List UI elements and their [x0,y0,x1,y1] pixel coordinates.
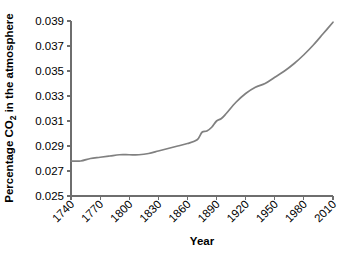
x-tick-label: 1920 [224,198,251,225]
y-axis-title-post: in the atmosphere [3,13,15,115]
x-tick-label: 1770 [79,198,106,225]
x-tick-label: 1980 [283,198,310,225]
x-tick-label: 1860 [166,198,193,225]
y-tick-label: 0.033 [35,90,64,102]
y-tick-label: 0.035 [35,65,64,77]
x-tick-label: 1950 [254,198,281,225]
data-series-line [71,22,333,161]
x-tick-label: 1800 [108,198,135,225]
y-tick-label: 0.037 [35,40,64,52]
y-tick-label: 0.027 [35,165,64,177]
y-tick-label: 0.025 [35,190,64,202]
chart-container: Percentage CO2 in the atmosphere 0.0250.… [0,0,345,257]
x-tick-label: 1890 [195,198,222,225]
y-tick-label: 0.039 [35,15,64,27]
x-axis-ticks: 1740177018001830186018901920195019802010 [50,196,339,225]
x-tick-label: 1830 [137,198,164,225]
y-axis-ticks: 0.0250.0270.0290.0310.0330.0350.0370.039 [35,15,71,202]
y-axis-title: Percentage CO2 in the atmosphere [3,13,18,202]
x-tick-label: 2010 [312,198,339,225]
y-axis-title-pre: Percentage CO [3,120,15,203]
co2-line-chart: Percentage CO2 in the atmosphere 0.0250.… [0,0,345,257]
y-tick-label: 0.031 [35,115,64,127]
x-axis-title: Year [190,235,215,247]
y-tick-label: 0.029 [35,140,64,152]
